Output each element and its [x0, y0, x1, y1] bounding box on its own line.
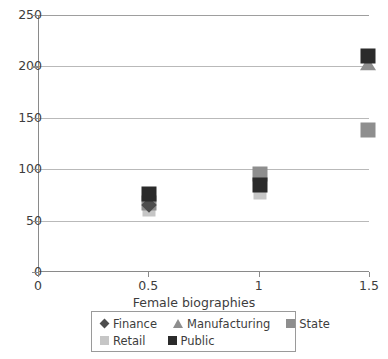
x-tick-mark-1 — [259, 272, 260, 277]
data-point-public-1.5 — [361, 49, 376, 64]
scatter-chart: 250 200 150 100 50 0 0 0.5 1 1.5 Female … — [0, 0, 388, 359]
data-point-public-0.5 — [142, 186, 157, 201]
x-tick-label-1.5: 1.5 — [345, 279, 388, 292]
legend-row-1: Finance Manufacturing State — [98, 315, 289, 332]
x-tick-label-0.5: 0.5 — [124, 279, 172, 292]
square-marker-icon — [168, 336, 177, 345]
y-tick-mark-200 — [32, 66, 38, 67]
y-tick-mark-50 — [32, 221, 38, 222]
gridline-250 — [39, 15, 369, 16]
diamond-marker-icon — [100, 319, 110, 329]
square-marker-icon — [100, 336, 109, 345]
gridline-200 — [39, 66, 369, 67]
x-tick-label-0: 0 — [14, 279, 62, 292]
gridline-150 — [39, 118, 369, 119]
legend-label-finance: Finance — [113, 318, 157, 330]
legend-row-2: Retail Public — [98, 332, 289, 349]
triangle-marker-icon — [173, 319, 183, 328]
x-tick-label-1: 1 — [235, 279, 283, 292]
data-point-public-1 — [252, 177, 267, 192]
chart-legend: Finance Manufacturing State Retail Publi… — [91, 311, 296, 352]
x-axis-title: Female biographies — [0, 296, 388, 310]
legend-label-manufacturing: Manufacturing — [187, 318, 270, 330]
legend-item-finance: Finance — [100, 318, 157, 330]
legend-item-state: State — [286, 318, 329, 330]
x-tick-mark-0.5 — [148, 272, 149, 277]
gridline-100 — [39, 169, 369, 170]
square-marker-icon — [286, 319, 295, 328]
y-tick-mark-100 — [32, 169, 38, 170]
y-tick-mark-150 — [32, 118, 38, 119]
legend-item-public: Public — [168, 335, 215, 347]
x-tick-mark-0 — [38, 272, 39, 277]
legend-label-public: Public — [181, 335, 215, 347]
legend-label-retail: Retail — [113, 335, 146, 347]
data-point-state-1.5 — [361, 123, 376, 138]
legend-item-manufacturing: Manufacturing — [173, 318, 270, 330]
x-tick-mark-1.5 — [369, 272, 370, 277]
y-tick-mark-250 — [32, 15, 38, 16]
legend-item-retail: Retail — [100, 335, 146, 347]
legend-label-state: State — [299, 318, 329, 330]
plot-area — [38, 15, 369, 272]
gridline-50 — [39, 221, 369, 222]
